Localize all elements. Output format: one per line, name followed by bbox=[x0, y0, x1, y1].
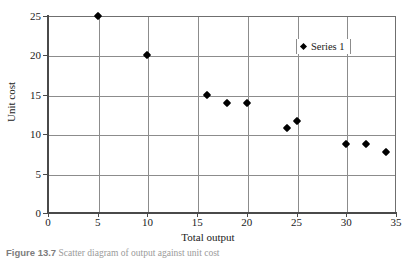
y-axis-tick-label: 10 bbox=[17, 128, 41, 140]
y-axis-line bbox=[47, 15, 49, 214]
figure-caption-number: Figure 13.7 bbox=[6, 247, 56, 258]
gridline-horizontal bbox=[49, 96, 395, 97]
x-axis-tick-label: 25 bbox=[284, 216, 310, 229]
gridline-horizontal bbox=[49, 56, 395, 57]
x-axis-tick-label: 20 bbox=[234, 216, 260, 229]
x-axis-tick-label: 5 bbox=[85, 216, 111, 229]
x-axis-line bbox=[47, 212, 397, 214]
y-axis-tick bbox=[43, 55, 48, 56]
y-axis-tick-label: 0 bbox=[17, 207, 41, 219]
x-axis-tick-label: 35 bbox=[383, 216, 409, 229]
gridline-vertical bbox=[148, 17, 149, 212]
y-axis-tick bbox=[43, 213, 48, 214]
y-axis-tick bbox=[43, 134, 48, 135]
x-axis-tick-label: 30 bbox=[333, 216, 359, 229]
y-axis-tick bbox=[43, 16, 48, 17]
gridline-horizontal bbox=[49, 135, 395, 136]
y-axis-tick-label: 25 bbox=[17, 10, 41, 22]
x-axis-title: Total output bbox=[0, 231, 416, 243]
scatter-chart-figure: 051015202530350510152025 Series 1 Total … bbox=[0, 0, 416, 259]
y-axis-title: Unit cost bbox=[5, 67, 17, 137]
y-axis-tick bbox=[43, 174, 48, 175]
diamond-marker-icon bbox=[300, 43, 307, 50]
y-axis-tick-label: 20 bbox=[17, 49, 41, 61]
figure-caption-text: Scatter diagram of output against unit c… bbox=[59, 248, 220, 258]
x-axis-tick-label: 15 bbox=[184, 216, 210, 229]
gridline-horizontal bbox=[49, 175, 395, 176]
legend-entry-label: Series 1 bbox=[311, 41, 345, 53]
chart-legend: Series 1 bbox=[296, 39, 351, 54]
y-axis-tick bbox=[43, 95, 48, 96]
figure-caption: Figure 13.7 Scatter diagram of output ag… bbox=[6, 247, 410, 259]
x-axis-tick-label: 10 bbox=[134, 216, 160, 229]
gridline-vertical bbox=[99, 17, 100, 212]
gridline-vertical bbox=[248, 17, 249, 212]
gridline-vertical bbox=[198, 17, 199, 212]
y-axis-tick-label: 5 bbox=[17, 168, 41, 180]
y-axis-tick-label: 15 bbox=[17, 89, 41, 101]
